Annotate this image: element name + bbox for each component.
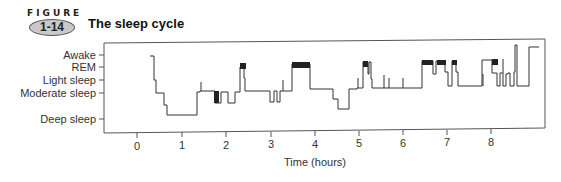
x-tick-3: 3 — [268, 138, 274, 150]
rem-blocks — [214, 59, 498, 103]
x-axis-title: Time (hours) — [284, 156, 346, 168]
y-label-moderate-sleep: Moderate sleep — [20, 87, 96, 99]
x-tick-0: 0 — [134, 140, 140, 152]
y-axis: Awake REM Light sleep Moderate sleep Dee… — [20, 49, 104, 125]
x-tick-2: 2 — [223, 139, 229, 151]
y-label-deep-sleep: Deep sleep — [40, 113, 96, 125]
x-tick-8: 8 — [488, 136, 494, 148]
y-label-awake: Awake — [63, 49, 96, 61]
x-tick-5: 5 — [356, 137, 362, 149]
y-label-light-sleep: Light sleep — [43, 74, 96, 86]
sleep-cycle-chart: Awake REM Light sleep Moderate sleep Dee… — [0, 0, 561, 182]
hypnogram-line — [150, 45, 539, 115]
y-label-rem: REM — [72, 61, 96, 73]
x-tick-4: 4 — [312, 138, 318, 150]
x-tick-7: 7 — [444, 136, 450, 148]
x-axis: 0 1 2 3 4 5 6 7 8 Time (hours) — [134, 129, 494, 168]
x-tick-6: 6 — [400, 137, 406, 149]
x-tick-1: 1 — [179, 139, 185, 151]
